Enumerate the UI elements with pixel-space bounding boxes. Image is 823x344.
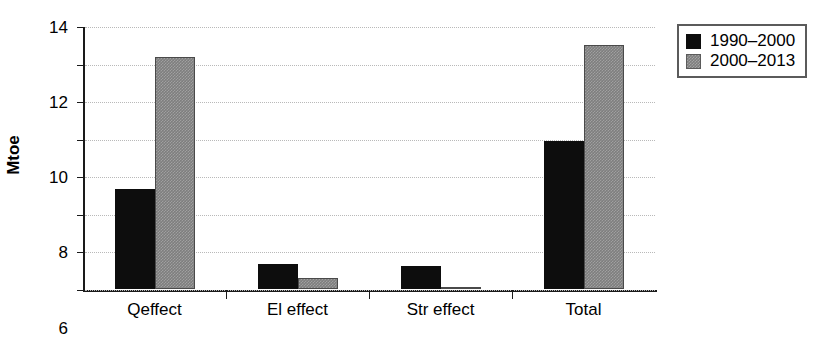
x-axis-category-label: Str effect — [407, 300, 475, 320]
x-axis-category-label: El effect — [267, 300, 328, 320]
bar-str-effect-series-0 — [401, 266, 441, 289]
bar-el-effect-series-1 — [298, 278, 338, 289]
y-axis-tick: 12 — [77, 65, 84, 66]
chart-figure: Mtoe 02468101214 1990–2000 2000–2013 Qef… — [0, 0, 823, 344]
y-axis-tick-label: 8 — [38, 244, 68, 261]
legend-label-series-1: 2000–2013 — [710, 52, 795, 70]
legend-item: 2000–2013 — [686, 51, 795, 71]
y-axis-tick: 0 — [77, 290, 84, 291]
x-axis-tick — [369, 290, 370, 299]
legend-item: 1990–2000 — [686, 31, 795, 51]
bar-str-effect-series-1 — [441, 287, 481, 289]
y-axis-title: Mtoe — [4, 120, 24, 190]
y-axis-tick: 14 — [77, 27, 84, 28]
y-axis-tick-label: 12 — [38, 94, 68, 111]
y-axis-tick-label: 14 — [38, 19, 68, 36]
x-axis-category-label: Total — [566, 300, 602, 320]
bar-qeffect-series-1 — [155, 57, 195, 289]
chart-legend: 1990–2000 2000–2013 — [677, 24, 807, 78]
bar-total-series-0 — [544, 141, 584, 289]
bar-qeffect-series-0 — [115, 189, 155, 289]
gridline — [85, 290, 655, 292]
bar-el-effect-series-0 — [258, 264, 298, 289]
y-axis-tick: 8 — [77, 140, 84, 141]
y-axis-tick: 10 — [77, 102, 84, 103]
y-axis-tick: 4 — [77, 215, 84, 216]
x-axis-tick — [226, 290, 227, 299]
y-axis-tick-label: 6 — [38, 319, 68, 336]
x-axis-category-label: Qeffect — [127, 300, 182, 320]
gridline — [85, 27, 655, 29]
y-axis-line — [83, 27, 85, 291]
y-axis-tick: 2 — [77, 252, 84, 253]
legend-swatch-series-0 — [686, 34, 701, 49]
legend-swatch-series-1 — [686, 54, 701, 69]
bar-total-series-1 — [584, 45, 624, 289]
y-axis-tick-label: 10 — [38, 169, 68, 186]
plot-area: 02468101214 — [83, 27, 655, 290]
y-axis-tick: 6 — [77, 177, 84, 178]
legend-label-series-0: 1990–2000 — [710, 32, 795, 50]
x-axis-tick — [512, 290, 513, 299]
